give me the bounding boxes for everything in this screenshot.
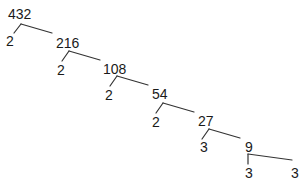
branch-from-n432	[14, 24, 52, 33]
node-2-factor-2: 2	[57, 63, 65, 77]
factor-tree-diagram: 432 2 216 2 108 2 54 2 27 3 9 3 3	[0, 0, 306, 184]
node-2-factor-3: 2	[105, 88, 113, 102]
node-54: 54	[152, 87, 168, 101]
node-3-factor-2: 3	[245, 166, 253, 180]
node-2-factor-1: 2	[6, 34, 14, 48]
node-9: 9	[245, 140, 253, 154]
node-3-factor-1: 3	[200, 140, 208, 154]
node-2-factor-4: 2	[152, 115, 160, 129]
branch-from-n216	[62, 51, 100, 61]
node-27: 27	[198, 114, 214, 128]
node-216: 216	[56, 36, 79, 50]
node-108: 108	[103, 62, 126, 76]
branch-from-n27	[202, 129, 240, 139]
branch-from-n54	[156, 103, 194, 113]
node-432: 432	[8, 7, 31, 21]
node-3-factor-3: 3	[291, 166, 299, 180]
branch-from-n9	[248, 154, 292, 164]
branch-from-n108	[110, 76, 148, 86]
